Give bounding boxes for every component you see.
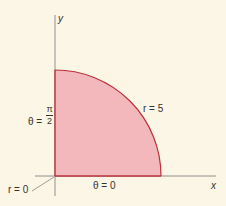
pi-half-fraction: π 2: [46, 105, 53, 126]
quarter-disk-region: [55, 70, 161, 176]
fraction-numerator: π: [46, 105, 53, 114]
r-five-label: r = 5: [143, 103, 163, 114]
theta-zero-label: θ = 0: [93, 180, 116, 191]
r-zero-label: r = 0: [8, 184, 28, 195]
x-axis-label: x: [211, 180, 216, 191]
polar-region-diagram: [0, 0, 226, 206]
r-zero-leader: [32, 177, 54, 191]
y-axis-label: y: [58, 13, 63, 24]
fraction-denominator: 2: [46, 117, 53, 126]
theta-pi-half-label: θ =: [28, 116, 42, 127]
